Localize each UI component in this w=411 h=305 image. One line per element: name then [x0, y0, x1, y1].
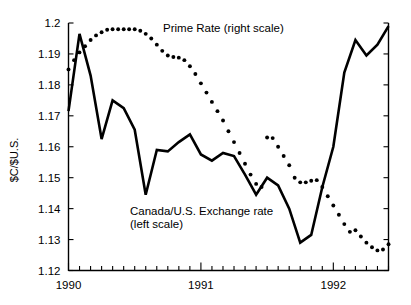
series-dots-prime-rate: [67, 27, 391, 252]
series-dot: [387, 242, 391, 246]
series-dot: [260, 185, 264, 189]
series-dot: [72, 58, 76, 62]
series-dot: [105, 28, 109, 32]
series-dot: [249, 173, 253, 177]
annotations-layer: Prime Rate (right scale)Canada/U.S. Exch…: [130, 22, 284, 230]
series-dot: [315, 178, 319, 182]
series-dot: [375, 248, 379, 252]
series-dot: [282, 154, 286, 158]
exchange-rate-annotation-line1: Canada/U.S. Exchange rate: [130, 205, 273, 217]
series-dot: [193, 72, 197, 76]
series-dot: [271, 136, 275, 140]
x-tick-label: 1991: [188, 279, 214, 291]
chart-figure: 1.121.131.141.151.161.171.181.191.2 1990…: [0, 0, 411, 305]
series-dot: [254, 182, 258, 186]
series-dot: [221, 119, 225, 123]
series-dot: [67, 67, 71, 71]
series-dot: [243, 162, 247, 166]
series-dot: [331, 204, 335, 208]
y-tick-label: 1.17: [38, 110, 60, 122]
series-dot: [227, 129, 231, 133]
plot-frame: [69, 23, 390, 271]
series-dot: [320, 185, 324, 189]
y-tick-label: 1.12: [38, 265, 60, 277]
y-tick-label: 1.16: [38, 141, 60, 153]
series-dot: [216, 109, 220, 113]
y-tick-label: 1.18: [38, 79, 60, 91]
y-axis-title: $C/$U.S.: [8, 138, 20, 183]
series-dot: [364, 241, 368, 245]
series-dot: [100, 30, 104, 34]
series-dot: [160, 49, 164, 53]
y-tick-label: 1.13: [38, 234, 60, 246]
series-dot: [94, 33, 98, 37]
series-dot: [232, 140, 236, 144]
x-axis: 199019911992: [56, 263, 389, 291]
chart-canvas: 1.121.131.141.151.161.171.181.191.2 1990…: [0, 0, 411, 305]
series-layer: [67, 26, 391, 252]
series-dot: [381, 248, 385, 252]
series-dot: [265, 136, 269, 140]
y-tick-label: 1.19: [38, 48, 60, 60]
series-dot: [177, 56, 181, 60]
series-dot: [298, 180, 302, 184]
series-dot: [342, 222, 346, 226]
series-dot: [78, 50, 82, 54]
series-dot: [293, 176, 297, 180]
series-dot: [348, 230, 352, 234]
series-dot: [210, 100, 214, 104]
series-dot: [188, 64, 192, 68]
series-dot: [144, 32, 148, 36]
series-dot: [326, 194, 330, 198]
series-dot: [287, 163, 291, 167]
series-dot: [171, 55, 175, 59]
series-dot: [238, 151, 242, 155]
series-dot: [155, 43, 159, 47]
exchange-rate-annotation-line2: (left scale): [130, 218, 183, 230]
series-dot: [127, 27, 131, 31]
y-tick-label: 1.14: [38, 203, 61, 215]
series-dot: [370, 245, 374, 249]
series-dot: [116, 27, 120, 31]
series-dot: [359, 235, 363, 239]
series-dot: [138, 29, 142, 33]
series-dot: [133, 27, 137, 31]
series-dot: [205, 91, 209, 95]
series-dot: [89, 38, 93, 42]
prime-rate-annotation: Prime Rate (right scale): [163, 22, 284, 34]
series-dot: [83, 44, 87, 48]
series-dot: [304, 180, 308, 184]
series-dot: [166, 54, 170, 58]
y-tick-label: 1.2: [45, 17, 61, 29]
series-dot: [276, 145, 280, 149]
series-dot: [309, 179, 313, 183]
series-dot: [111, 27, 115, 31]
series-dot: [353, 228, 357, 232]
series-dot: [149, 37, 153, 41]
series-dot: [182, 58, 186, 62]
series-dot: [199, 81, 203, 85]
x-tick-label: 1992: [321, 279, 347, 291]
series-dot: [122, 27, 126, 31]
right-axis: [384, 23, 389, 271]
x-tick-label: 1990: [56, 279, 82, 291]
series-dot: [337, 213, 341, 217]
y-tick-label: 1.15: [38, 172, 60, 184]
